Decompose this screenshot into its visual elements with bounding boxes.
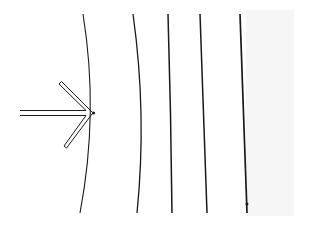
diagram-canvas [0,0,310,228]
arrow-icon [20,82,92,149]
wavefront-3 [168,14,172,213]
wavefront-diagram [0,0,310,228]
arrow-tip [92,111,95,114]
wavefront-2 [133,14,141,213]
wavefront-1 [80,14,90,213]
wavefront-4 [200,14,207,213]
ink-mark [246,203,249,206]
wavefronts [80,14,247,213]
wavefront-5 [240,14,247,213]
